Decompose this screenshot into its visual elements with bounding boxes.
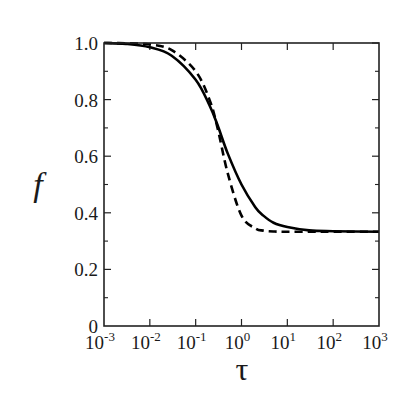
x-tick-label: 100 [225, 329, 251, 353]
y-tick-label: 0.8 [74, 90, 98, 111]
y-tick-label: 0.2 [74, 259, 98, 280]
plot-curves [104, 43, 379, 232]
x-tick-label: 103 [362, 329, 388, 353]
x-axis-ticks: 10-310-210-1100101102103 [85, 43, 388, 353]
x-tick-label: 101 [271, 329, 297, 353]
x-tick-label: 102 [316, 329, 342, 353]
x-tick-label: 10-3 [85, 329, 115, 353]
y-tick-label: 0.6 [74, 146, 98, 167]
chart: 00.20.40.60.81.0 10-310-210-110010110210… [0, 0, 415, 402]
y-axis-label: f [33, 166, 47, 203]
solid-curve [104, 43, 379, 232]
x-tick-label: 10-1 [177, 329, 207, 353]
dashed-curve [104, 43, 379, 232]
y-tick-label: 0.4 [74, 203, 98, 224]
x-tick-label: 10-2 [131, 329, 161, 353]
y-axis-ticks: 00.20.40.60.81.0 [74, 33, 379, 337]
y-tick-label: 1.0 [74, 33, 98, 54]
x-axis-label: τ [236, 351, 249, 387]
